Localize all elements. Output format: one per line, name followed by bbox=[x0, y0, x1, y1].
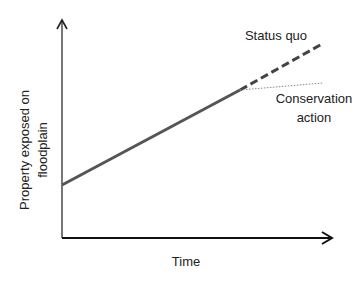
trend-line bbox=[62, 90, 240, 185]
diagram-svg: Status quo Conservation action Time Prop… bbox=[0, 0, 362, 282]
y-axis-label-line1: Property exposed on bbox=[17, 90, 32, 210]
diagram-canvas: Status quo Conservation action Time Prop… bbox=[0, 0, 362, 282]
conservation-label-line2: action bbox=[297, 110, 332, 125]
conservation-label-line1: Conservation bbox=[276, 91, 353, 106]
y-axis-label: Property exposed on floodplain bbox=[17, 90, 50, 210]
status-quo-label: Status quo bbox=[245, 28, 307, 43]
y-axis-label-line2: floodplain bbox=[35, 122, 50, 178]
status-quo-line bbox=[240, 44, 322, 90]
x-axis-label: Time bbox=[172, 254, 200, 269]
